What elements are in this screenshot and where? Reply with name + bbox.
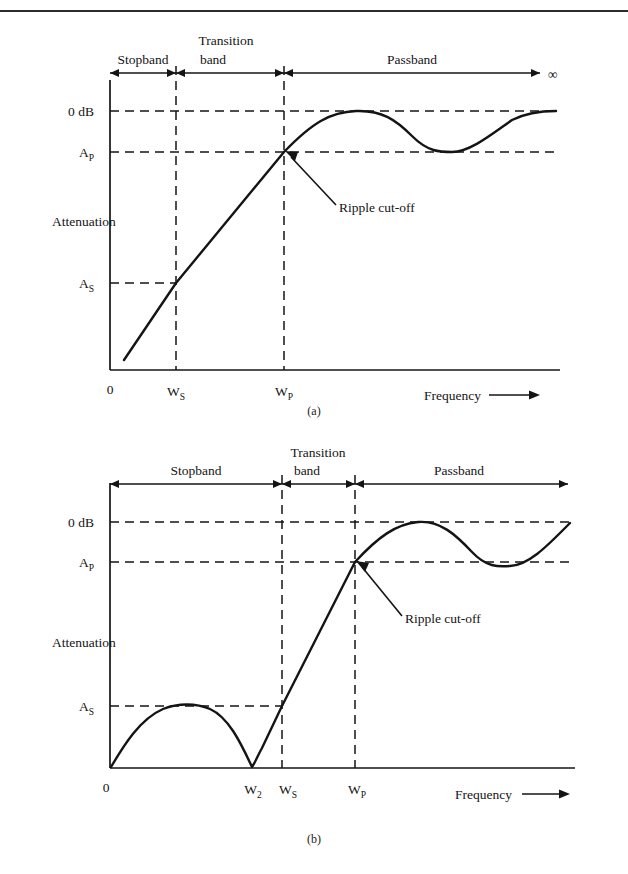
y-tick-as-a: AS (79, 276, 94, 294)
band-label-transition-line2-b: band (294, 463, 320, 478)
frequency-arrow-b (522, 790, 570, 799)
band-arrows-a (110, 69, 540, 77)
x-tick-ws-b: WS (279, 782, 297, 800)
x-tick-wp-b: WP (348, 782, 366, 800)
passband-arrow-head-right-b (559, 480, 568, 488)
x-origin-label-b: 0 (103, 780, 110, 795)
band-label-transition-line2-a: band (200, 52, 226, 67)
ripple-cutoff-arrow-head-a (285, 151, 298, 161)
stopband-arrow-head-right-a (167, 69, 176, 77)
y-tick-ap-b: AP (79, 555, 94, 573)
y-tick-0db-a: 0 dB (68, 104, 94, 119)
figure-caption-a: (a) (0, 404, 628, 419)
band-label-passband-b: Passband (434, 463, 484, 478)
figure-a: 0 dB AP AS Attenuation 0 WS WP Frequency… (0, 20, 628, 420)
frequency-arrow-a (489, 391, 540, 400)
band-label-stopband-a: Stopband (117, 52, 168, 67)
ripple-cutoff-annotation-b (356, 561, 402, 616)
passband-arrow-head-right-a (531, 69, 540, 77)
figure-a-plot: 0 dB AP AS Attenuation 0 WS WP Frequency… (0, 20, 628, 420)
band-label-passband-a: Passband (387, 52, 437, 67)
y-axis-label-b: Attenuation (52, 635, 116, 650)
x-origin-label-a: 0 (107, 382, 114, 397)
ripple-cutoff-label-b: Ripple cut-off (405, 611, 481, 626)
band-label-transition-line1-b: Transition (290, 445, 345, 460)
stopband-arrow-head-right-b (273, 480, 282, 488)
ripple-cutoff-annotation-a (285, 151, 336, 205)
x-tick-w2-b: W2 (244, 782, 262, 800)
page-top-rule (0, 10, 628, 12)
x-tick-ws-a: WS (167, 384, 185, 402)
infinity-label-a: ∞ (548, 67, 558, 82)
response-curve-a (124, 111, 556, 360)
x-axis-label-a: Frequency (424, 388, 481, 403)
figure-b-plot: 0 dB AP AS Attenuation 0 W2 WS WP Freque… (0, 445, 628, 865)
stopband-arrow-head-left-b (110, 480, 119, 488)
stopband-arrow-head-left-a (110, 69, 119, 77)
ripple-cutoff-leader-a (291, 157, 336, 205)
response-curve-b (111, 522, 570, 767)
transition-arrow-head-left-b (282, 480, 291, 488)
band-label-stopband-b: Stopband (170, 463, 221, 478)
y-tick-ap-a: AP (79, 145, 94, 163)
transition-arrow-head-right-a (275, 69, 284, 77)
band-label-transition-line1-a: Transition (198, 33, 253, 48)
figure-b: 0 dB AP AS Attenuation 0 W2 WS WP Freque… (0, 445, 628, 865)
frequency-arrow-head-b (559, 790, 570, 799)
passband-arrow-head-left-a (284, 69, 293, 77)
y-tick-0db-b: 0 dB (68, 515, 94, 530)
y-tick-as-b: AS (79, 699, 94, 717)
ripple-cutoff-label-a: Ripple cut-off (339, 200, 415, 215)
band-arrows-b (110, 480, 568, 488)
transition-arrow-head-right-b (346, 480, 355, 488)
y-axis-label-a: Attenuation (52, 214, 116, 229)
frequency-arrow-head-a (529, 391, 540, 400)
ripple-cutoff-leader-b (362, 567, 402, 616)
figure-page: 0 dB AP AS Attenuation 0 WS WP Frequency… (0, 0, 628, 874)
x-tick-wp-a: WP (275, 384, 293, 402)
figure-caption-b: (b) (0, 832, 628, 847)
transition-arrow-head-left-a (176, 69, 185, 77)
passband-arrow-head-left-b (355, 480, 364, 488)
x-axis-label-b: Frequency (455, 787, 512, 802)
